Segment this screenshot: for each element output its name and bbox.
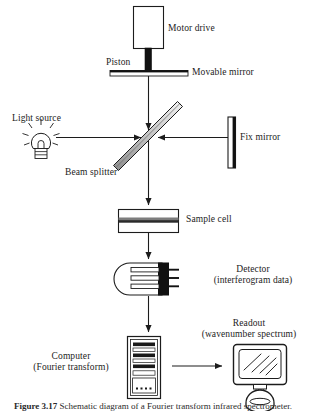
- light-source-bulb: [23, 119, 60, 159]
- label-detector-sub: (interferogram data): [190, 275, 316, 286]
- figure-caption-text: Schematic diagram of a Fourier transform…: [60, 401, 292, 411]
- label-readout: Readout: [182, 318, 316, 329]
- fix-mirror-plate: [228, 117, 236, 168]
- computer-tower: [128, 337, 161, 399]
- label-computer-sub: (Fourier transform): [20, 362, 122, 373]
- figure-caption-number: Figure 3.17: [14, 401, 57, 411]
- label-sample-cell: Sample cell: [186, 214, 232, 225]
- label-fix-mirror: Fix mirror: [240, 132, 280, 143]
- movable-mirror-plate: [110, 70, 188, 76]
- label-motor-drive: Motor drive: [168, 23, 215, 34]
- label-movable-mirror: Movable mirror: [192, 67, 254, 78]
- label-light-source: Light source: [12, 113, 61, 124]
- label-piston: Piston: [106, 57, 130, 68]
- label-computer: Computer: [20, 351, 122, 362]
- sample-cell-box: [119, 210, 179, 233]
- label-detector: Detector: [190, 264, 316, 275]
- detector-body: [114, 263, 179, 296]
- piston-rod: [145, 48, 152, 71]
- figure-caption: Figure 3.17 Schematic diagram of a Fouri…: [14, 401, 292, 411]
- label-readout-sub: (wavenumber spectrum): [180, 329, 318, 340]
- motor-drive-box: [134, 7, 164, 49]
- label-beam-splitter: Beam splitter: [65, 167, 117, 178]
- ftir-spectrometer-diagram: [0, 0, 322, 411]
